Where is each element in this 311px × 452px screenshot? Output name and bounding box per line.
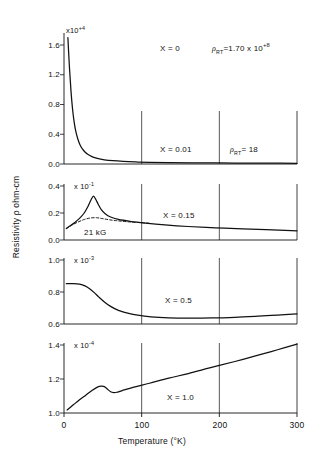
panel-3-composition-label: X = 0.5 — [165, 296, 192, 305]
panel-2-ytick-0.4: 0.4 — [30, 182, 60, 191]
panel-1-secondary-rho-rt-label: ρRT= 18 — [230, 145, 258, 154]
panel-1-ytick-0.0: 0.0 — [30, 160, 60, 169]
panel-4-ytick-1.2: 1.2 — [30, 375, 60, 384]
panel-1-composition-label: X = 0 — [160, 44, 180, 53]
panel-1-ytick-1.6: 1.6 — [30, 41, 60, 50]
panel-2-exponent-label: x 10-1 — [74, 182, 94, 191]
panel-1-ytick-1.2: 1.2 — [30, 70, 60, 79]
panel-4-ytick-1.0: 1.0 — [30, 409, 60, 418]
panel-4-exponent-label: x 10-4 — [74, 341, 94, 350]
xtick-0: 0 — [54, 420, 74, 430]
panel-1-ytick-0.8: 0.8 — [30, 100, 60, 109]
panel-2-ytick-0.2: 0.2 — [30, 209, 60, 218]
panel-2-field-label: 21 kG — [84, 228, 106, 237]
y-axis-title: Resistivity ρ ohm-cm — [11, 157, 21, 277]
plot-canvas — [0, 0, 311, 452]
panel-3-exponent-label: x 10-3 — [74, 256, 94, 265]
xtick-100: 100 — [132, 420, 152, 430]
panel-3-ytick-0.6: 0.6 — [30, 320, 60, 329]
x-axis-title: Temperature (°K) — [118, 436, 186, 446]
panel-2-ytick-0.0: 0.0 — [30, 236, 60, 245]
panel-1-secondary-composition-label: X = 0.01 — [160, 145, 192, 154]
panel-4-composition-label: X = 1.0 — [167, 393, 194, 402]
panel-3-ytick-1.0: 1.0 — [30, 256, 60, 265]
panel-1-rho-rt-label: ρRT=1.70 x 10+8 — [212, 44, 270, 53]
panel-3-ytick-0.8: 0.8 — [30, 288, 60, 297]
resistivity-temperature-figure: Resistivity ρ ohm-cm x10+4 1.6 1.2 0.8 0… — [0, 0, 311, 452]
xtick-200: 200 — [210, 420, 230, 430]
panel-1-exponent-label: x10+4 — [66, 26, 85, 35]
panel-4-ytick-1.4: 1.4 — [30, 341, 60, 350]
panel-2-composition-label: X = 0.15 — [163, 211, 195, 220]
panel-1-ytick-0.4: 0.4 — [30, 130, 60, 139]
xtick-300: 300 — [287, 420, 307, 430]
